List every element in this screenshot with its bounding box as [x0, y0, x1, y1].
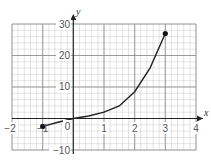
y-tick: 20 — [59, 50, 71, 61]
x-tick: 3 — [163, 123, 169, 134]
y-axis-label: y — [75, 6, 81, 17]
x-axis-label: x — [203, 107, 209, 118]
x-axis-arrow-icon — [197, 116, 203, 122]
y-tick: 10 — [59, 81, 71, 92]
x-tick: −1 — [37, 123, 49, 134]
x-tick: −2 — [4, 123, 16, 134]
x-tick: 0 — [65, 121, 71, 132]
y-tick-labels: 30 20 10 −10 — [49, 19, 71, 156]
chart: −2 −1 0 1 2 3 4 30 20 10 −10 x y — [0, 0, 211, 162]
x-tick: 1 — [101, 123, 107, 134]
y-tick: −10 — [53, 145, 70, 156]
x-tick: 4 — [193, 123, 199, 134]
end-point — [163, 31, 168, 36]
x-tick: 2 — [132, 123, 138, 134]
y-tick: 30 — [59, 19, 71, 30]
x-tick-labels: −2 −1 0 1 2 3 4 — [2, 120, 201, 134]
